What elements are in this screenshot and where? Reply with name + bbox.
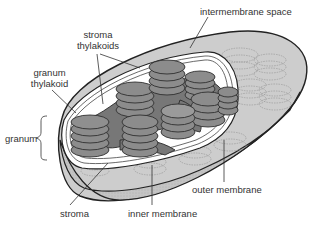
label-stroma-thylakoids: stroma thylakoids <box>73 29 123 51</box>
label-stroma: stroma <box>60 208 89 219</box>
granum-stack-g <box>122 115 158 157</box>
label-stroma-thylakoids-line2: thylakoids <box>73 40 123 51</box>
granum-stack-left <box>71 115 109 157</box>
label-granum-thylakoid-line1: granum <box>27 67 72 78</box>
label-granum: granum <box>5 133 37 144</box>
granum-brace <box>36 116 47 160</box>
granum-stack-h <box>161 104 195 139</box>
label-granum-thylakoid-line2: thylakoid <box>27 78 72 89</box>
chloroplast-illustration <box>0 0 318 228</box>
label-granum-thylakoid: granum thylakoid <box>27 67 72 89</box>
granum-stack-c <box>149 60 185 95</box>
label-intermembrane-space: intermembrane space <box>200 6 292 17</box>
label-outer-membrane: outer membrane <box>192 184 262 195</box>
granum-stack-f <box>218 87 238 115</box>
label-stroma-thylakoids-line1: stroma <box>73 29 123 40</box>
label-inner-membrane: inner membrane <box>128 208 197 219</box>
granum-stack-b <box>116 82 154 117</box>
chloroplast-diagram: intermembrane space stroma thylakoids gr… <box>0 0 318 228</box>
